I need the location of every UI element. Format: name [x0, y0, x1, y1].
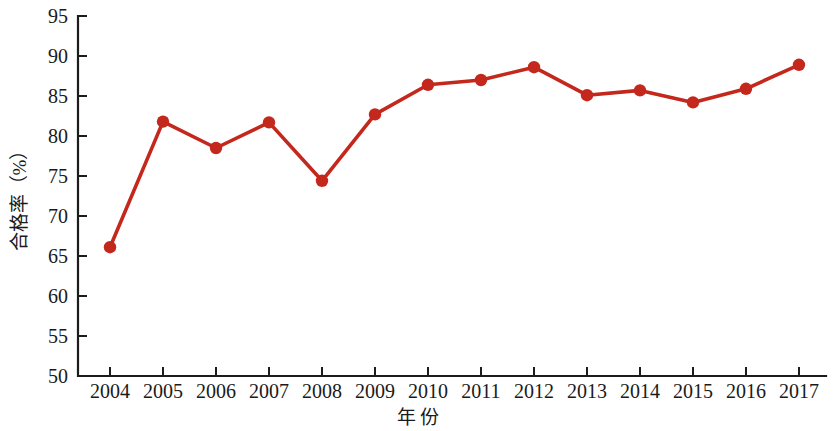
y-tick-label: 50 [48, 365, 68, 387]
y-tick-label: 55 [48, 325, 68, 347]
data-point [104, 241, 116, 253]
data-point [634, 84, 646, 96]
y-tick-label: 75 [48, 165, 68, 187]
y-tick-label: 80 [48, 125, 68, 147]
data-series-group [104, 59, 805, 254]
x-tick-label: 2004 [90, 380, 130, 402]
x-tick-label: 2011 [461, 380, 500, 402]
x-tick-label: 2006 [196, 380, 236, 402]
x-tick-label: 2008 [302, 380, 342, 402]
x-tick-label: 2016 [726, 380, 766, 402]
data-point [687, 96, 699, 108]
data-point [369, 108, 381, 120]
x-tick-label: 2010 [408, 380, 448, 402]
data-point [422, 79, 434, 91]
y-tick-label: 60 [48, 285, 68, 307]
y-tick-label: 65 [48, 245, 68, 267]
x-tick-label: 2017 [779, 380, 819, 402]
x-axis-title: 年 份 [397, 407, 440, 428]
y-tick-label: 95 [48, 5, 68, 27]
x-tick-label: 2015 [673, 380, 713, 402]
x-tick-label: 2007 [249, 380, 289, 402]
x-tick-label: 2013 [567, 380, 607, 402]
data-point [210, 142, 222, 154]
axes-group [78, 16, 826, 376]
data-point [528, 61, 540, 73]
y-tick-label: 90 [48, 45, 68, 67]
data-point [316, 175, 328, 187]
x-tick-label: 2009 [355, 380, 395, 402]
data-point [263, 116, 275, 128]
y-axis-ticks: 50556065707580859095 [48, 5, 87, 387]
data-point [581, 89, 593, 101]
x-axis-ticks: 2004200520062007200820092010201120122013… [90, 367, 819, 402]
y-tick-label: 70 [48, 205, 68, 227]
x-tick-label: 2014 [620, 380, 660, 402]
data-point [475, 74, 487, 86]
series-line-合格率 [110, 65, 799, 247]
data-point [157, 115, 169, 127]
axis-spines [78, 16, 826, 376]
chart-container: 50556065707580859095 2004200520062007200… [0, 0, 834, 431]
x-tick-label: 2012 [514, 380, 554, 402]
y-tick-label: 85 [48, 85, 68, 107]
line-chart: 50556065707580859095 2004200520062007200… [0, 0, 834, 431]
x-tick-label: 2005 [143, 380, 183, 402]
data-point [793, 59, 805, 71]
y-axis-title: 合格率（%） [9, 141, 30, 252]
data-point [740, 83, 752, 95]
